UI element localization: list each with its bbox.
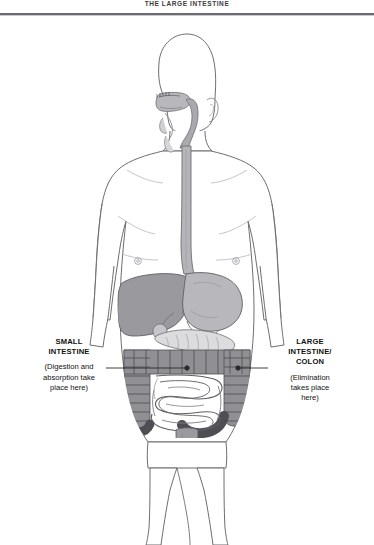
callout-large-intestine-note-line1: (Elimination	[290, 373, 330, 382]
callout-small-intestine-heading: SMALL INTESTINE	[14, 337, 124, 357]
callout-small-intestine-note-line3: place here)	[50, 383, 88, 392]
callout-large-intestine-heading-line2: INTESTINE/	[288, 347, 331, 356]
page-canvas: THE LARGE INTESTINE	[0, 0, 374, 545]
callout-large-intestine-heading-line1: LARGE	[296, 337, 323, 346]
callout-small-intestine-note-line1: (Digestion and	[45, 362, 94, 371]
callout-small-intestine-note: (Digestion and absorption take place her…	[14, 362, 124, 393]
page-title: THE LARGE INTESTINE	[0, 0, 374, 8]
header-divider	[0, 13, 374, 15]
callout-large-intestine-note-line2: takes place	[291, 383, 329, 392]
callout-small-intestine: SMALL INTESTINE (Digestion and absorptio…	[14, 337, 124, 393]
callout-large-intestine-heading-line3: COLON	[296, 357, 324, 366]
callout-large-intestine-note: (Elimination takes place here)	[258, 373, 362, 404]
callout-large-intestine-heading: LARGE INTESTINE/ COLON	[258, 337, 362, 368]
callout-small-intestine-note-line2: absorption take	[43, 373, 95, 382]
callout-small-intestine-heading-line1: SMALL	[56, 337, 83, 346]
callout-large-intestine-note-line3: here)	[301, 393, 319, 402]
callout-large-intestine: LARGE INTESTINE/ COLON (Elimination take…	[258, 337, 362, 403]
callout-small-intestine-heading-line2: INTESTINE	[48, 347, 89, 356]
digestive-system-illustration	[0, 18, 374, 545]
anatomy-figure	[0, 18, 374, 545]
